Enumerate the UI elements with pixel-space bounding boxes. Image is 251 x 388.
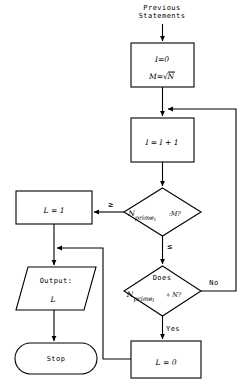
- edge-label-yes: Yes: [166, 325, 180, 333]
- set-l-one-label: L = 1: [43, 199, 64, 218]
- increment-label: I = I + 1: [145, 131, 178, 150]
- init-line2-lhs: M: [149, 72, 157, 81]
- set-l-zero-label: L = 0: [155, 351, 176, 370]
- compare-var-subscript: primei: [135, 213, 156, 221]
- init-line1-rhs: 0: [164, 55, 169, 64]
- set-l-one-text: L = 1: [43, 206, 64, 215]
- output-variable: L: [50, 295, 55, 304]
- output-line1-label: Output:: [40, 277, 73, 285]
- init-line2-label: M=√N: [149, 65, 175, 84]
- stop-label: Stop: [47, 355, 66, 363]
- compare-sub-word: prime: [135, 213, 154, 221]
- compare-sub-index: i: [154, 216, 156, 222]
- divisibility-sub-index: i: [153, 297, 155, 303]
- edge-label-less-equal: ≤: [167, 242, 172, 251]
- compare-decision-label: Nprimei:M?: [127, 204, 203, 223]
- edge-label-no: No: [209, 279, 218, 287]
- divisibility-var-subscript: primei: [133, 294, 154, 302]
- set-l-zero-text: L = 0: [155, 358, 176, 367]
- divisibility-decision-label: Nprimei÷N?: [124, 285, 202, 304]
- flowchart-canvas: PreviousStatements I=0 M=√N I = I + 1 Np…: [0, 0, 251, 388]
- previous-statements-line1: Previous: [143, 4, 180, 12]
- previous-statements-label: PreviousStatements: [139, 4, 186, 21]
- divisibility-operator: ÷: [166, 290, 170, 298]
- compare-question-mark: ?: [177, 209, 180, 217]
- divisibility-line1-label: Does: [153, 274, 172, 282]
- flowchart-connectors-layer: [0, 0, 251, 388]
- divisibility-question-mark: ?: [178, 290, 181, 298]
- init-line2-radicand: N: [167, 72, 175, 81]
- previous-statements-line2: Statements: [139, 12, 186, 20]
- increment-text: I = I + 1: [145, 138, 178, 147]
- output-line2-label: L: [50, 288, 55, 307]
- divisibility-sub-word: prime: [133, 294, 152, 302]
- divisibility-divisor: N: [172, 290, 178, 298]
- edge-label-greater-equal: ≥: [108, 200, 113, 209]
- output-io-shape: [16, 267, 96, 310]
- compare-var-base: N: [128, 208, 135, 217]
